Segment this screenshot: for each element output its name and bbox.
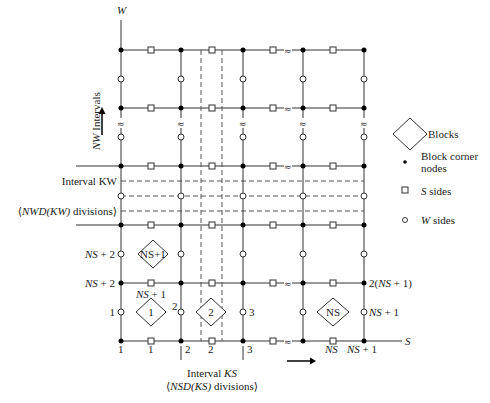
svg-text:NS+1: NS+1	[140, 248, 166, 260]
node-2-label: 2	[185, 343, 191, 355]
w-axis-label: W	[117, 4, 127, 16]
s-side-1-label: 1	[148, 343, 154, 355]
w-side-circle-icon	[403, 218, 408, 223]
node-ns-plus-1-label: NS + 1	[346, 343, 377, 355]
w-side-2-label: 2	[172, 300, 178, 312]
ns-plus-1-w-side-label: NS + 1	[368, 306, 399, 318]
nw-intervals-label: NW Intervals	[90, 92, 106, 151]
node-3-label: 3	[247, 343, 253, 355]
s-side-ns-plus-1-label: NS + 1	[135, 288, 166, 300]
svg-text:NW Intervals: NW Intervals	[90, 92, 102, 151]
svg-text:≈: ≈	[284, 104, 292, 114]
block-diamond-icon	[393, 118, 427, 150]
svg-text:W sides: W sides	[421, 214, 455, 226]
legend-corner-nodes: Block corner nodes	[403, 150, 478, 174]
legend-s-sides: S sides	[402, 185, 451, 197]
svg-text:≈: ≈	[284, 46, 292, 56]
w-axis: W	[117, 4, 127, 50]
ns-plus-2-w-side-label: NS + 2	[84, 248, 115, 260]
svg-text:nodes: nodes	[421, 162, 447, 174]
svg-text:S sides: S sides	[421, 185, 451, 197]
svg-text:≈: ≈	[284, 337, 292, 347]
svg-text:≈: ≈	[239, 119, 247, 129]
bottom-labels: 1 1 2 2 3 NS NS + 1 Interval KS ⟨NSD(KS)…	[118, 343, 377, 393]
w-side-1-label: 1	[110, 306, 116, 318]
nwd-divisions-label: ⟨NWD(KW) divisions⟩	[18, 205, 117, 218]
nsd-divisions-label: ⟨NSD(KS) divisions⟩	[166, 380, 258, 393]
svg-text:1: 1	[148, 306, 154, 318]
svg-text:≈: ≈	[299, 119, 307, 129]
s-side-2-label: 2	[208, 343, 214, 355]
corner-node-icon	[403, 160, 407, 164]
svg-text:NS: NS	[326, 306, 340, 318]
interval-kw-label: Interval KW	[62, 175, 118, 187]
s-direction-arrow-icon	[310, 358, 316, 365]
two-ns-plus-1-label: 2(NS + 1)	[369, 277, 412, 290]
s-side-ns-label: NS	[324, 343, 338, 355]
svg-text:Block corner: Block corner	[421, 150, 478, 162]
interval-ks-label: Interval KS	[187, 367, 237, 379]
legend-w-sides: W sides	[403, 214, 455, 226]
legend-blocks: Blocks	[393, 118, 459, 150]
svg-text:≈: ≈	[284, 279, 292, 289]
block-ns-plus-1: NS+1	[138, 240, 168, 268]
svg-text:≈: ≈	[284, 162, 292, 172]
s-axis-label: S	[405, 335, 411, 347]
svg-text:Blocks: Blocks	[428, 128, 459, 140]
ns-plus-2-node-label: NS + 2	[84, 277, 115, 289]
right-labels: 2(NS + 1) NS + 1	[368, 277, 412, 318]
vertical-break-symbols: ≈ ≈ ≈ ≈ ≈	[117, 118, 369, 129]
svg-text:≈: ≈	[177, 119, 185, 129]
svg-text:≈: ≈	[360, 119, 368, 129]
svg-text:≈: ≈	[117, 119, 125, 129]
left-labels: Interval KW ⟨NWD(KW) divisions⟩ NS + 2 N…	[18, 175, 118, 318]
svg-text:2: 2	[208, 306, 214, 318]
node-1-label: 1	[118, 343, 124, 355]
grid-discretization-diagram: W S NW Intervals	[0, 0, 490, 403]
legend: Blocks Block corner nodes S sides W side…	[393, 118, 478, 226]
w-side-3-label: 3	[249, 306, 255, 318]
s-side-square-icon	[402, 187, 408, 193]
block-1: 1	[136, 298, 166, 326]
block-ns: NS	[317, 298, 349, 326]
